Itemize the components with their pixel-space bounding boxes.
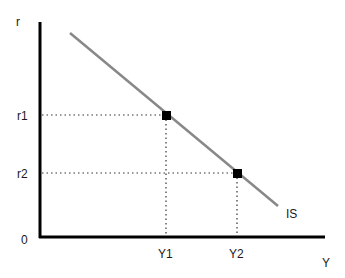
is-curve-label: IS [286,208,297,220]
y-axis-label: r [16,16,20,28]
y2-tick-label: Y2 [229,248,244,260]
is-curve [70,33,278,206]
r1-label: r1 [17,110,28,122]
r2-label: r2 [17,168,28,180]
point-y2-r2 [233,169,242,178]
y1-tick-label: Y1 [158,248,173,260]
x-axis-label: Y [322,257,330,269]
origin-label: 0 [21,234,28,246]
is-curve-diagram [0,0,345,278]
point-y1-r1 [162,111,171,120]
